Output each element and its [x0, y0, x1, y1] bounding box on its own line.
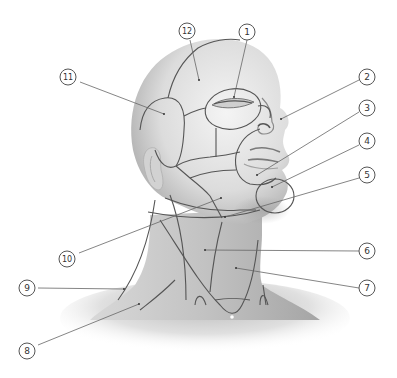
label-3: 3: [359, 100, 376, 117]
ear: [144, 148, 163, 190]
label-1: 1: [239, 24, 256, 41]
label-8: 8: [19, 343, 36, 360]
label-10: 10: [59, 251, 76, 268]
label-5: 5: [359, 167, 376, 184]
label-12: 12: [179, 23, 196, 40]
head-neck-diagram: [0, 0, 397, 378]
label-2: 2: [359, 69, 376, 86]
label-4: 4: [359, 133, 376, 150]
label-6: 6: [359, 243, 376, 260]
label-11: 11: [60, 69, 77, 86]
label-7: 7: [359, 280, 376, 297]
label-9: 9: [19, 280, 36, 297]
